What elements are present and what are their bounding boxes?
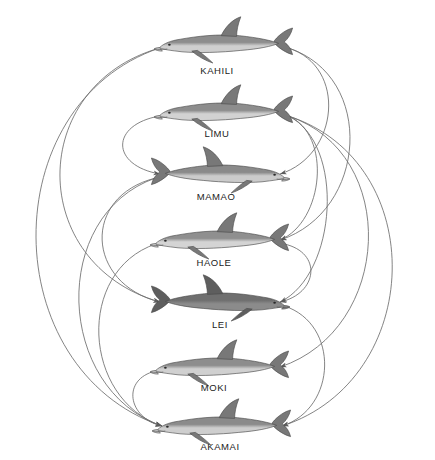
dolphin-label-lei: LEI xyxy=(212,319,228,330)
dolphin-node-kahili[interactable] xyxy=(154,13,294,72)
dolphin-illustration xyxy=(154,13,294,72)
dolphin-label-limu: LIMU xyxy=(205,128,230,139)
dolphin-label-kahili: KAHILI xyxy=(200,65,233,76)
arc-limu-to-akamai xyxy=(282,116,392,426)
dolphin-label-mamao: MAMAO xyxy=(197,191,236,202)
dolphin-label-moki: MOKI xyxy=(201,382,227,393)
dolphin-hierarchy-figure: KAHILILIMUMAMAOHAOLELEIMOKIAKAMAI xyxy=(0,0,435,460)
dolphin-label-akamai: AKAMAI xyxy=(200,441,239,452)
dolphin-label-haole: HAOLE xyxy=(197,257,232,268)
arc-kahili-to-akamai xyxy=(36,48,162,426)
arc-kahili-to-lei xyxy=(60,48,160,302)
arc-limu-to-moki xyxy=(280,116,368,367)
